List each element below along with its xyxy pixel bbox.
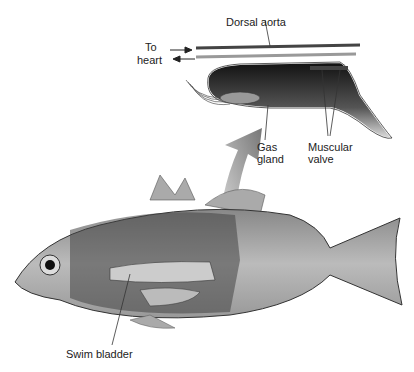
label-gas-gland-2: gland xyxy=(257,153,284,165)
label-to-heart-2: heart xyxy=(137,54,162,66)
label-to-heart-1: To xyxy=(145,41,157,53)
label-muscular-valve-2: valve xyxy=(308,153,334,165)
label-swim-bladder: Swim bladder xyxy=(66,348,133,360)
diagram-illustration xyxy=(0,0,414,372)
label-gas-gland-1: Gas xyxy=(257,141,277,153)
label-muscular-valve-1: Muscular xyxy=(308,141,353,153)
fish-body xyxy=(15,175,402,345)
label-dorsal-aorta: Dorsal aorta xyxy=(226,16,286,28)
swim-bladder-diagram: Dorsal aorta To heart Gas gland Muscular… xyxy=(0,0,414,372)
to-heart-arrows xyxy=(170,47,195,62)
muscular-valve-shape xyxy=(310,66,348,70)
